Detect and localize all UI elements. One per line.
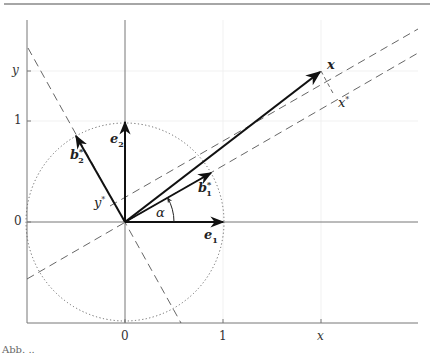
label-y-star-sup: *: [101, 195, 105, 204]
y-tick-y: y: [12, 64, 19, 76]
label-x-star-sup: *: [345, 95, 349, 104]
frame-ticks: [27, 71, 321, 323]
caption-fragment: Abb. ..: [2, 344, 35, 355]
label-x-star: x*: [338, 96, 349, 109]
label-b2-star: b*2: [70, 147, 84, 164]
grid: [27, 20, 418, 323]
label-e2-sub: 2: [118, 139, 124, 149]
x-tick-1: 1: [219, 330, 227, 342]
label-e1-sub: 1: [212, 235, 218, 245]
x-tick-x: x: [317, 330, 324, 342]
diagram-canvas: [0, 0, 434, 356]
label-y-star: y*: [94, 196, 105, 209]
alpha-arc: [167, 198, 174, 223]
label-b1-star: b*1: [198, 180, 212, 197]
y-tick-0: 0: [14, 215, 22, 227]
projection-dashed: [321, 71, 334, 95]
label-x-vector: x: [327, 58, 335, 71]
label-b1-sub: 1: [206, 188, 212, 198]
label-b2-sub: 2: [78, 155, 84, 165]
label-e2: e2: [110, 132, 124, 148]
parallel-dashed: [110, 29, 418, 206]
label-alpha: α: [156, 206, 165, 219]
y-tick-1: 1: [14, 114, 22, 126]
b1-axis-dashed: [27, 53, 418, 279]
label-e1: e1: [204, 228, 218, 244]
vector-x: [125, 72, 320, 222]
x-tick-0: 0: [121, 330, 129, 342]
